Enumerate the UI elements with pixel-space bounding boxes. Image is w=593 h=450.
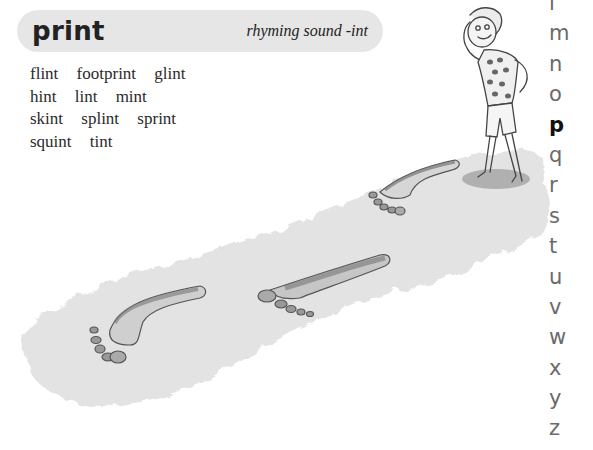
alphabet-letter-w[interactable]: w (546, 322, 586, 352)
alphabet-letter-o[interactable]: o (546, 79, 586, 109)
rhyme-word: mint (116, 87, 147, 106)
alphabet-letter-p-active[interactable]: p (546, 110, 586, 140)
rhyming-sound-label: rhyming sound -int (247, 10, 368, 52)
alphabet-letter-n[interactable]: n (546, 49, 586, 79)
rhyme-word-list: flint footprint glint hint lint mint ski… (30, 63, 200, 153)
rhyme-word: glint (154, 64, 185, 83)
word-line: skint splint sprint (30, 108, 200, 131)
rhyme-word: hint (30, 87, 56, 106)
alphabet-letter-m[interactable]: m (546, 18, 586, 48)
rhyme-word: splint (81, 109, 119, 128)
alphabet-letter-t[interactable]: t (546, 231, 586, 261)
rhyme-word: skint (30, 109, 63, 128)
rhyme-word: sprint (137, 109, 176, 128)
word-line: flint footprint glint (30, 63, 200, 86)
alphabet-letter-q[interactable]: q (546, 140, 586, 170)
alphabet-letter-v[interactable]: v (546, 292, 586, 322)
alphabet-letter-l[interactable]: l (546, 0, 586, 18)
alphabet-letter-z[interactable]: z (546, 413, 586, 443)
alphabet-letter-y[interactable]: y (546, 383, 586, 413)
rhyme-word: lint (75, 87, 98, 106)
rhyme-word: footprint (77, 64, 137, 83)
alphabet-letter-u[interactable]: u (546, 262, 586, 292)
alphabet-letter-r[interactable]: r (546, 170, 586, 200)
word-line: hint lint mint (30, 86, 200, 109)
rhyme-word: squint (30, 132, 72, 151)
rhyme-word: flint (30, 64, 58, 83)
alphabet-letter-s[interactable]: s (546, 201, 586, 231)
word-line: squint tint (30, 131, 200, 154)
rhyme-word: tint (90, 132, 113, 151)
alphabet-index: l m n o p q r s t u v w x y z (546, 0, 586, 444)
sand-wash (20, 150, 548, 406)
alphabet-letter-x[interactable]: x (546, 353, 586, 383)
headword: print (32, 10, 105, 52)
